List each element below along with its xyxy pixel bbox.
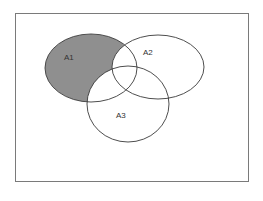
set-a1-label: A1 (64, 53, 74, 62)
venn-diagram: A1 A2 A3 (0, 0, 263, 201)
set-a2-label: A2 (143, 48, 153, 57)
set-a3-label: A3 (116, 111, 126, 120)
diagram-frame (16, 14, 249, 182)
